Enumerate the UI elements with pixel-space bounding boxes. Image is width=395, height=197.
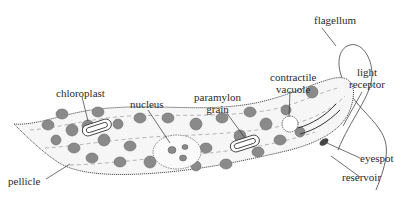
contractile-vacuole-label-line2: vacuole — [270, 83, 316, 95]
light-receptor-label-line2: receptor — [349, 78, 385, 90]
flagellum-label: flagellum — [314, 14, 356, 26]
eyespot-label: eyespot — [360, 152, 394, 164]
contractile-vacuole-label-line1: contractile — [270, 71, 316, 83]
paramylon-grain-label-line2: grain — [194, 103, 241, 115]
paramylon-grain-label: paramylon grain — [194, 91, 241, 115]
reservoir-label: reservoir — [342, 171, 381, 183]
pellicle-label: pellicle — [8, 175, 40, 187]
chloroplast-label: chloroplast — [56, 87, 105, 99]
light-receptor-label: light receptor — [349, 66, 385, 90]
paramylon-grain-label-line1: paramylon — [194, 91, 241, 103]
nucleus-structure — [153, 135, 201, 169]
nucleus-label: nucleus — [130, 98, 164, 110]
light-receptor-label-line1: light — [349, 66, 385, 78]
contractile-vacuole-structure — [282, 116, 298, 132]
contractile-vacuole-label: contractile vacuole — [270, 71, 316, 95]
